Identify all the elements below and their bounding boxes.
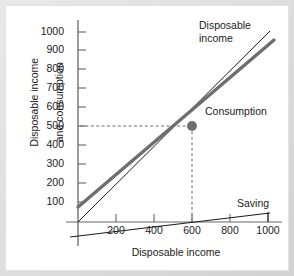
y-axis-title-line2: and consumption bbox=[53, 62, 65, 142]
annotation-disposable-income-line2: income bbox=[199, 33, 233, 44]
annotation-saving: Saving bbox=[237, 198, 269, 209]
annotation-consumption: Consumption bbox=[205, 106, 267, 117]
y-axis-title: Disposable income and consumption bbox=[16, 36, 78, 186]
x-tick-label-400: 400 bbox=[134, 225, 174, 236]
chart-card: 1000 900 800 700 600 500 400 300 200 100… bbox=[6, 6, 288, 270]
image-frame: 1000 900 800 700 600 500 400 300 200 100… bbox=[0, 0, 294, 276]
y-axis-ticks bbox=[78, 32, 86, 202]
x-tick-label-600: 600 bbox=[172, 225, 212, 236]
x-tick-label-1000: 1000 bbox=[248, 225, 288, 236]
annotation-disposable-income-line1: Disposable bbox=[199, 20, 251, 31]
x-tick-label-200: 200 bbox=[96, 225, 136, 236]
x-axis-title: Disposable income bbox=[106, 247, 246, 258]
x-tick-label-800: 800 bbox=[210, 225, 250, 236]
equilibrium-point-marker bbox=[187, 121, 197, 131]
consumption-line bbox=[78, 40, 274, 207]
y-tick-label-100: 100 bbox=[20, 196, 64, 207]
y-axis-title-line1: Disposable income bbox=[28, 58, 40, 147]
